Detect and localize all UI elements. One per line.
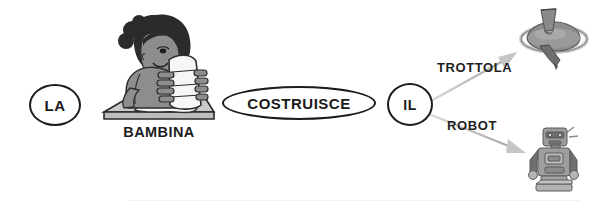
caption-bambina: BAMBINA — [106, 124, 212, 140]
diagram-canvas: LA COSTRUISCE IL BAMBINA TROTTOLA ROBOT — [0, 0, 608, 208]
node-il-label: IL — [403, 98, 416, 112]
node-la-label: LA — [45, 98, 66, 113]
node-il[interactable]: IL — [387, 83, 433, 126]
edge-label-robot: ROBOT — [447, 118, 497, 133]
node-costruisce-label: COSTRUISCE — [247, 96, 350, 111]
bottom-rule — [128, 200, 580, 201]
edge-label-trottola: TROTTOLA — [437, 60, 512, 75]
node-la[interactable]: LA — [29, 84, 81, 126]
node-costruisce[interactable]: COSTRUISCE — [222, 86, 376, 120]
